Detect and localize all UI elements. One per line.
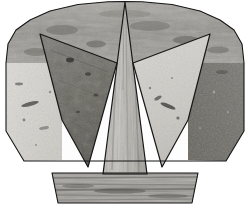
image-canvas: Faceted marble inlay figure polished sto… [0, 0, 250, 211]
faceted-stone-figure [0, 0, 250, 211]
